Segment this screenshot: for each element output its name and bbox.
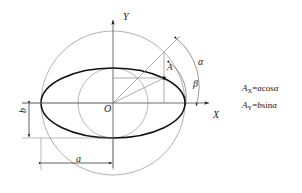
eq2-fn: sin bbox=[262, 100, 273, 110]
eq1-fn: cos bbox=[262, 83, 274, 93]
radius-ray-alpha bbox=[113, 52, 164, 103]
ellipse-construction-figure bbox=[0, 0, 302, 193]
point-a-label: A bbox=[167, 63, 173, 72]
origin-label: O bbox=[104, 104, 111, 114]
x-axis-label: X bbox=[213, 110, 219, 120]
radius-ray-point-a bbox=[113, 78, 164, 103]
point-a-marker bbox=[162, 76, 166, 80]
alpha-arc bbox=[177, 39, 199, 106]
eq1-arg: α bbox=[274, 83, 279, 93]
equation-ay: AY=bsinα bbox=[242, 101, 277, 111]
semi-minor-label: b bbox=[18, 108, 28, 113]
alpha-ray-extension bbox=[164, 36, 180, 52]
alpha-angle-label: α bbox=[198, 57, 203, 67]
eq2-arg: α bbox=[272, 100, 277, 110]
semi-major-label: a bbox=[76, 154, 81, 164]
y-axis-label: Y bbox=[123, 12, 129, 22]
beta-angle-label: β bbox=[193, 79, 198, 89]
equation-ax: AX=acosα bbox=[242, 84, 279, 94]
